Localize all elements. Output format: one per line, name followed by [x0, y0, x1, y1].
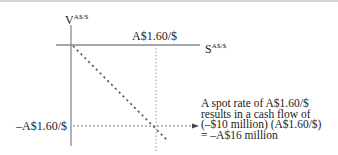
annotation-line: A spot rate of A$1.60/$: [201, 98, 321, 109]
annotation-text: A spot rate of A$1.60/$ results in a cas…: [201, 98, 321, 140]
y-axis-symbol: V: [65, 13, 74, 27]
annotation-line: = –A$16 million: [201, 130, 321, 141]
x-axis-symbol: S: [205, 42, 212, 56]
x-marker-label: A$1.60/$: [132, 30, 177, 42]
arrowhead-icon: [192, 124, 199, 129]
annotation-line: (–$10 million) (A$1.60/$): [201, 119, 321, 130]
y-axis-superscript: A$/$: [74, 13, 89, 21]
y-axis-label: VA$/$: [65, 11, 88, 26]
x-axis-label: SA$/$: [205, 40, 227, 55]
payoff-line: [73, 46, 168, 141]
y-marker-label: –A$1.60/$: [16, 120, 67, 132]
x-axis-superscript: A$/$: [212, 42, 227, 50]
